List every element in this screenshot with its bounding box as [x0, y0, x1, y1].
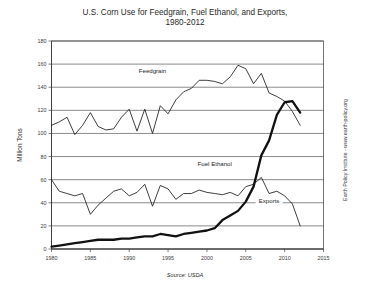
y-tick-label: 160: [38, 61, 47, 67]
y-tick-label: 0: [44, 246, 47, 252]
y-tick-label: 40: [41, 200, 47, 206]
chart-title-line2: 1980-2012: [165, 18, 205, 27]
y-tick-label: 80: [41, 154, 47, 160]
y-tick-label: 180: [38, 38, 47, 44]
x-tick-label: 1980: [46, 255, 58, 261]
x-tick-label: 2005: [240, 255, 252, 261]
corn-use-line-chart: U.S. Corn Use for Feedgrain, Fuel Ethano…: [0, 0, 369, 288]
series-label-feedgrain: Feedgrain: [139, 67, 166, 74]
x-tick-label: 1990: [123, 255, 135, 261]
y-tick-label: 120: [38, 107, 47, 113]
x-tick-label: 2015: [318, 255, 330, 261]
chart-title-line1: U.S. Corn Use for Feedgrain, Fuel Ethano…: [83, 8, 288, 17]
y-tick-label: 60: [41, 177, 47, 183]
series-label-fuel-ethanol: Fuel Ethanol: [198, 160, 232, 167]
y-tick-label: 20: [41, 223, 47, 229]
x-tick-label: 2000: [201, 255, 213, 261]
chart-canvas: U.S. Corn Use for Feedgrain, Fuel Ethano…: [0, 0, 369, 288]
y-tick-label: 140: [38, 84, 47, 90]
y-tick-label: 100: [38, 130, 47, 136]
source-note: Source: USDA: [167, 272, 204, 278]
x-tick-label: 2010: [279, 255, 291, 261]
chart-background: [0, 0, 369, 288]
x-tick-label: 1985: [84, 255, 96, 261]
credit-note: Earth Policy Institute - www.earth-polic…: [342, 99, 348, 201]
y-axis-title: Million Tons: [16, 128, 23, 161]
series-label-exports: Exports: [259, 197, 280, 204]
x-tick-label: 1995: [162, 255, 174, 261]
